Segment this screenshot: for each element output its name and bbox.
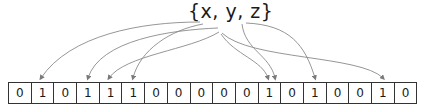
bit-cell-4: 1 bbox=[100, 82, 123, 104]
bit-cell-12: 0 bbox=[281, 82, 304, 104]
bit-cell-3: 1 bbox=[77, 82, 100, 104]
bit-cell-1: 1 bbox=[32, 82, 55, 104]
bit-cell-16: 1 bbox=[372, 82, 395, 104]
bit-cell-5: 1 bbox=[122, 82, 145, 104]
bit-array: 0 1 0 1 1 1 0 0 0 0 0 1 0 1 0 0 1 0 bbox=[8, 82, 417, 104]
bit-cell-7: 0 bbox=[168, 82, 191, 104]
bit-cell-17: 0 bbox=[395, 82, 418, 104]
bit-cell-13: 1 bbox=[304, 82, 327, 104]
arrow-y-to-3 bbox=[88, 28, 218, 78]
bit-cell-9: 0 bbox=[213, 82, 236, 104]
bit-cell-2: 0 bbox=[54, 82, 77, 104]
bit-cell-10: 0 bbox=[236, 82, 259, 104]
bit-cell-6: 0 bbox=[145, 82, 168, 104]
arrow-y-to-16 bbox=[222, 33, 383, 78]
bit-cell-11: 1 bbox=[259, 82, 282, 104]
bit-cell-8: 0 bbox=[191, 82, 214, 104]
bit-cell-15: 0 bbox=[349, 82, 372, 104]
bit-cell-0: 0 bbox=[9, 82, 32, 104]
bit-cell-14: 0 bbox=[327, 82, 350, 104]
arrow-x-to-1 bbox=[41, 22, 200, 78]
